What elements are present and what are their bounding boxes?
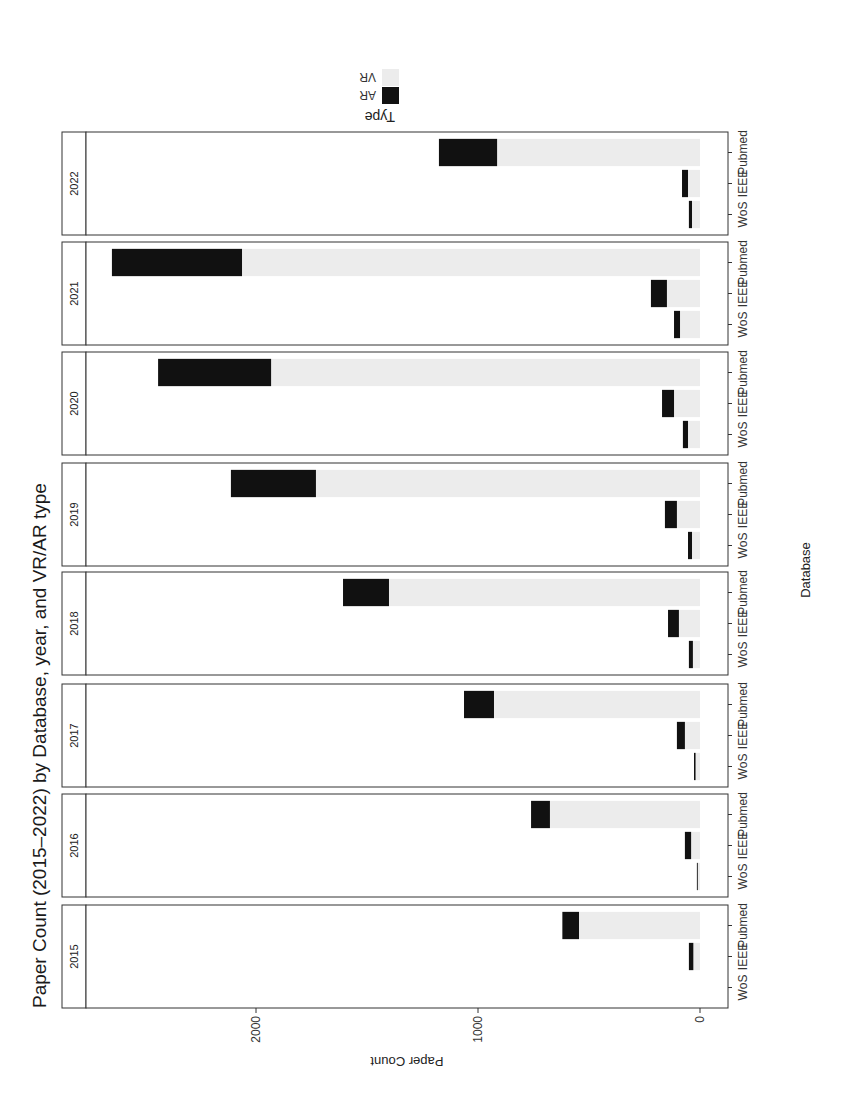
x-tick-label: Pubmed xyxy=(736,350,750,395)
facet-panel-2019: 2019WoSIEEEPubmed xyxy=(62,461,750,566)
bar-vr-pubmed-2022 xyxy=(497,139,700,166)
bar-ar-ieee-2020 xyxy=(662,390,674,417)
bar-vr-pubmed-2016 xyxy=(550,801,700,828)
facet-strip-label: 2019 xyxy=(68,502,80,526)
bar-vr-ieee-2022 xyxy=(688,170,700,197)
facet-panel-2022: 2022WoSIEEEPubmed xyxy=(62,130,750,235)
bar-ar-wos-2021 xyxy=(674,311,680,338)
bar-ar-wos-2017 xyxy=(694,753,696,780)
y-tick-label: 2000 xyxy=(249,1016,263,1043)
facet-strip-label: 2021 xyxy=(68,281,80,305)
legend: Type ARVR xyxy=(359,69,399,125)
bar-vr-pubmed-2017 xyxy=(494,691,700,718)
faceted-stacked-bar-chart: Paper Count (2015–2022) by Database, yea… xyxy=(0,0,845,1097)
chart-title: Paper Count (2015–2022) by Database, yea… xyxy=(29,483,50,1008)
facet-strip-label: 2018 xyxy=(68,611,80,635)
bar-ar-ieee-2017 xyxy=(677,722,685,749)
rotated-chart-stage: Paper Count (2015–2022) by Database, yea… xyxy=(0,0,845,1097)
facet-panel-2015: 2015WoSIEEEPubmed xyxy=(62,903,750,1008)
facet-strip-label: 2017 xyxy=(68,723,80,747)
bar-ar-ieee-2022 xyxy=(682,170,688,197)
bar-ar-pubmed-2019 xyxy=(231,470,316,497)
x-tick-label: Pubmed xyxy=(736,130,750,175)
bar-vr-ieee-2021 xyxy=(667,280,700,307)
bar-ar-pubmed-2018 xyxy=(343,579,389,606)
bar-ar-ieee-2019 xyxy=(665,501,677,528)
bar-vr-pubmed-2021 xyxy=(242,249,700,276)
x-tick-label: WoS xyxy=(736,202,750,228)
bar-ar-pubmed-2017 xyxy=(464,691,494,718)
x-tick-label: Pubmed xyxy=(736,792,750,837)
x-tick-label: WoS xyxy=(736,533,750,559)
bar-ar-pubmed-2021 xyxy=(112,249,242,276)
facet-strip-label: 2015 xyxy=(68,944,80,968)
x-tick-label: WoS xyxy=(736,642,750,668)
y-axis: 010002000 xyxy=(249,1008,707,1043)
bar-vr-ieee-2020 xyxy=(674,390,700,417)
bar-ar-pubmed-2022 xyxy=(439,139,497,166)
bar-vr-wos-2019 xyxy=(692,532,700,559)
bar-vr-wos-2017 xyxy=(696,753,700,780)
x-axis-label: Database xyxy=(798,542,813,598)
bar-vr-ieee-2017 xyxy=(685,722,700,749)
x-tick-label: Pubmed xyxy=(736,240,750,285)
facet-panels: 2015WoSIEEEPubmed2016WoSIEEEPubmed2017Wo… xyxy=(62,130,750,1008)
x-tick-label: WoS xyxy=(736,975,750,1001)
bar-vr-wos-2016 xyxy=(698,863,700,890)
bar-ar-wos-2018 xyxy=(689,641,693,668)
facet-strip-label: 2020 xyxy=(68,391,80,415)
bar-ar-pubmed-2015 xyxy=(562,912,579,939)
bar-vr-pubmed-2018 xyxy=(389,579,700,606)
x-tick-label: WoS xyxy=(736,312,750,338)
x-tick-label: Pubmed xyxy=(736,461,750,506)
bar-vr-pubmed-2015 xyxy=(579,912,700,939)
bar-vr-ieee-2019 xyxy=(677,501,700,528)
y-axis-label: Paper Count xyxy=(370,1054,443,1069)
legend-label-ar: AR xyxy=(359,88,376,102)
legend-label-vr: VR xyxy=(359,70,376,84)
bar-ar-wos-2022 xyxy=(689,201,692,228)
bar-vr-pubmed-2019 xyxy=(316,470,700,497)
y-tick-label: 1000 xyxy=(471,1016,485,1043)
facet-panel-2018: 2018WoSIEEEPubmed xyxy=(62,570,750,675)
bar-ar-ieee-2015 xyxy=(689,943,693,970)
y-tick-label: 0 xyxy=(693,1016,707,1023)
bar-ar-wos-2019 xyxy=(688,532,692,559)
bar-vr-wos-2022 xyxy=(692,201,700,228)
bar-vr-wos-2021 xyxy=(680,311,700,338)
bar-ar-ieee-2018 xyxy=(668,610,679,637)
legend-title: Type xyxy=(364,109,395,125)
bar-vr-wos-2018 xyxy=(693,641,700,668)
bar-ar-ieee-2021 xyxy=(651,280,667,307)
facet-panel-2016: 2016WoSIEEEPubmed xyxy=(62,792,750,897)
bar-ar-pubmed-2016 xyxy=(531,801,550,828)
bar-ar-pubmed-2020 xyxy=(158,359,271,386)
bar-vr-pubmed-2020 xyxy=(271,359,700,386)
bar-vr-wos-2020 xyxy=(688,421,700,448)
facet-strip-label: 2022 xyxy=(68,171,80,195)
facet-panel-2020: 2020WoSIEEEPubmed xyxy=(62,350,750,455)
bar-ar-ieee-2016 xyxy=(685,832,691,859)
x-tick-label: WoS xyxy=(736,422,750,448)
x-tick-label: WoS xyxy=(736,754,750,780)
facet-strip-label: 2016 xyxy=(68,833,80,857)
bar-vr-ieee-2018 xyxy=(679,610,700,637)
bar-vr-ieee-2016 xyxy=(691,832,700,859)
x-tick-label: Pubmed xyxy=(736,903,750,948)
legend-swatch-vr xyxy=(382,69,399,86)
bar-vr-ieee-2015 xyxy=(693,943,700,970)
x-tick-label: Pubmed xyxy=(736,570,750,615)
bar-ar-wos-2016 xyxy=(697,863,698,890)
facet-panel-2017: 2017WoSIEEEPubmed xyxy=(62,682,750,787)
facet-panel-2021: 2021WoSIEEEPubmed xyxy=(62,240,750,345)
x-tick-label: WoS xyxy=(736,864,750,890)
x-tick-label: Pubmed xyxy=(736,682,750,727)
bar-ar-wos-2020 xyxy=(683,421,688,448)
legend-swatch-ar xyxy=(382,87,399,104)
